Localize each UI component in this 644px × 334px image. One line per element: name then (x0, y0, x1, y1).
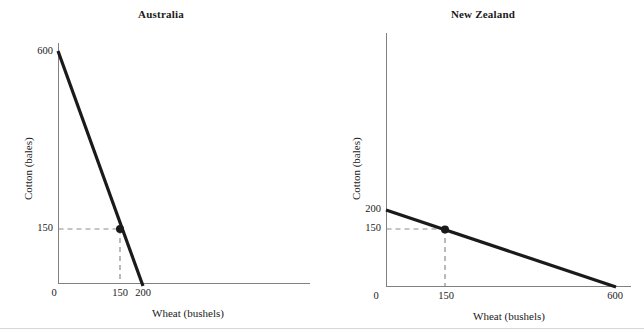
y-tick-label-600-australia: 600 (18, 45, 53, 56)
x-tick-label-0-newzealand: 0 (366, 290, 386, 301)
y-axis-title-australia: Cotton (bales) (22, 137, 34, 200)
x-tick-label-200-australia: 200 (128, 287, 158, 298)
x-axis-title-newzealand: Wheat (bushels) (439, 310, 579, 322)
x-tick-label-150-newzealand: 150 (431, 290, 461, 301)
plot-area-newzealand (322, 0, 644, 334)
x-tick-label-600-newzealand: 600 (600, 290, 630, 301)
chart-panel-australia: Australia 600 150 0 150 200 Wheat (bushe… (0, 0, 322, 334)
production-point-australia (116, 225, 124, 233)
chart-panel-newzealand: New Zealand 200 150 0 150 600 Wheat (bus… (322, 0, 644, 334)
ppf-figure: Australia 600 150 0 150 200 Wheat (bushe… (0, 0, 644, 334)
y-tick-label-150-australia: 150 (18, 222, 53, 233)
y-tick-label-150-newzealand: 150 (346, 222, 381, 233)
ppf-line-australia (58, 51, 143, 286)
ppf-line-newzealand (386, 210, 616, 287)
footer-divider (0, 328, 644, 329)
y-tick-label-200-newzealand: 200 (346, 203, 381, 214)
production-point-newzealand (441, 226, 449, 234)
x-tick-label-0-australia: 0 (44, 287, 64, 298)
x-axis-title-australia: Wheat (bushels) (118, 307, 258, 319)
y-axis-title-newzealand: Cotton (bales) (350, 137, 362, 200)
